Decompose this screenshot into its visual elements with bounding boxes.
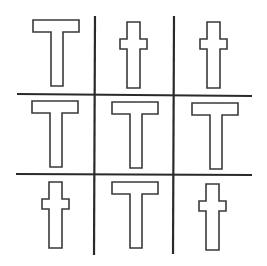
cell-r1c0-t-shape xyxy=(32,101,78,167)
horizontal-line-2 xyxy=(16,174,252,175)
cell-r0c0-t-shape xyxy=(33,20,79,86)
cell-r2c2-cross-shape xyxy=(199,184,226,250)
cell-r2c1-t-shape xyxy=(112,182,158,248)
vertical-line-1 xyxy=(94,16,95,255)
cell-r2c0-cross-shape xyxy=(42,182,69,248)
horizontal-line-1 xyxy=(17,94,252,96)
cell-r1c1-t-shape xyxy=(112,102,158,168)
cell-r0c1-cross-shape xyxy=(120,22,147,88)
cell-r0c2-cross-shape xyxy=(200,22,227,88)
cell-r1c2-t-shape xyxy=(192,103,238,169)
puzzle-grid xyxy=(0,0,267,266)
vertical-line-2 xyxy=(173,16,174,254)
